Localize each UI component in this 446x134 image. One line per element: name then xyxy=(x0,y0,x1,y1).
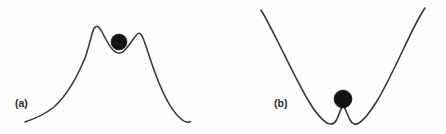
ball-marker-a xyxy=(111,34,127,50)
panel-label-a: (a) xyxy=(15,97,28,109)
figure-canvas xyxy=(0,0,446,134)
potential-energy-figure: (a) (b) xyxy=(0,0,446,134)
ball-marker-b xyxy=(334,90,352,108)
potential-curve-a xyxy=(25,26,190,122)
panel-label-b: (b) xyxy=(274,97,287,109)
